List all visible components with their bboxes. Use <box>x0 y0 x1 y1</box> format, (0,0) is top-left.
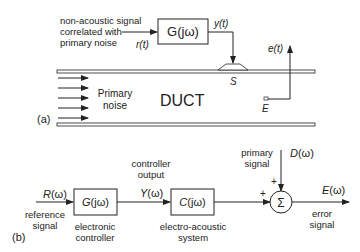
controller-desc-line1: electronic <box>75 221 116 232</box>
r-omega-label: R(ω) <box>43 188 67 200</box>
e-label: e(t) <box>268 43 283 54</box>
duct-label: DUCT <box>160 92 205 109</box>
plant-desc-line2: system <box>178 232 208 243</box>
plus-top: + <box>271 176 277 187</box>
plant-desc-line1: electro-acoustic <box>160 221 227 232</box>
source-note-line3: primary noise <box>60 37 117 48</box>
source-note-line2: correlated with <box>60 26 122 37</box>
input-desc-line2: signal <box>33 220 58 231</box>
panel-a: non-acoustic signal correlated with prim… <box>37 15 315 126</box>
controller-block-label: G(jω) <box>82 196 109 208</box>
d-omega-label: D(ω) <box>290 147 314 159</box>
speaker-icon <box>218 64 248 70</box>
panel-a-label: (a) <box>37 113 50 125</box>
disturbance-desc-line2: signal <box>245 158 270 169</box>
plant-block-label: C(jω) <box>179 196 205 208</box>
panel-b-label: (b) <box>12 231 25 243</box>
filter-label: G(jω) <box>167 24 199 39</box>
sum-symbol: Σ <box>277 196 284 210</box>
anc-diagram: non-acoustic signal correlated with prim… <box>0 0 360 252</box>
noise-label-line1: Primary <box>98 88 132 99</box>
speaker-label: S <box>230 76 237 87</box>
source-note-line1: non-acoustic signal <box>60 15 141 26</box>
output-desc-line1: controller <box>131 158 170 169</box>
y-arrow <box>208 32 233 63</box>
y-omega-label: Y(ω) <box>140 187 163 199</box>
error-desc-line2: signal <box>310 219 335 230</box>
duct-top-wall <box>57 70 315 73</box>
plus-left: + <box>260 188 266 199</box>
panel-b: (b) R(ω) reference signal G(jω) electron… <box>12 147 349 243</box>
output-desc-line2: output <box>138 169 165 180</box>
error-desc-line1: error <box>312 208 332 219</box>
microphone-icon <box>264 97 268 100</box>
r-label: r(t) <box>136 39 149 50</box>
e-omega-label: E(ω) <box>322 184 345 196</box>
noise-label-line2: noise <box>103 100 127 111</box>
mic-label: E <box>262 103 269 114</box>
y-label: y(t) <box>213 18 228 29</box>
input-desc-line1: reference <box>25 209 65 220</box>
disturbance-desc-line1: primary <box>241 147 273 158</box>
duct-bottom-wall <box>57 123 315 126</box>
controller-desc-line2: controller <box>75 232 114 243</box>
